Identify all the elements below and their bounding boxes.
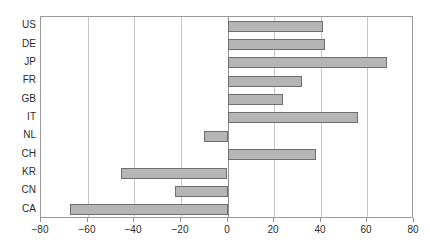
bar-gb[interactable]	[228, 94, 284, 105]
x-tick-label: 0	[224, 224, 230, 235]
category-label-de: DE	[0, 39, 36, 49]
bar-fr[interactable]	[228, 76, 303, 87]
x-tick-label: −80	[32, 224, 49, 235]
bar-jp[interactable]	[228, 57, 388, 68]
category-label-nl: NL	[0, 130, 36, 140]
x-axis: −80−60−40−20020406080	[40, 218, 413, 244]
bar-chart: USDEJPFRGBITNLCHKRCNCA −80−60−40−2002040…	[0, 0, 430, 250]
bar-row	[41, 127, 412, 145]
bar-row	[41, 201, 412, 219]
category-label-gb: GB	[0, 94, 36, 104]
bar-row	[41, 54, 412, 72]
category-label-ca: CA	[0, 204, 36, 214]
category-axis: USDEJPFRGBITNLCHKRCNCA	[0, 16, 36, 218]
category-label-kr: KR	[0, 167, 36, 177]
bar-nl[interactable]	[204, 131, 227, 142]
plot-area	[40, 16, 413, 218]
x-tick-label: 80	[407, 224, 418, 235]
category-label-jp: JP	[0, 57, 36, 67]
category-label-fr: FR	[0, 75, 36, 85]
category-label-it: IT	[0, 112, 36, 122]
category-label-cn: CN	[0, 185, 36, 195]
bar-row	[41, 146, 412, 164]
x-tick-label: −60	[79, 224, 96, 235]
bar-ca[interactable]	[70, 204, 227, 215]
x-tick	[133, 218, 134, 222]
category-label-ch: CH	[0, 149, 36, 159]
bar-de[interactable]	[228, 39, 326, 50]
bar-ch[interactable]	[228, 149, 317, 160]
bar-it[interactable]	[228, 112, 359, 123]
bar-row	[41, 35, 412, 53]
bar-row	[41, 182, 412, 200]
x-tick	[87, 218, 88, 222]
bar-row	[41, 17, 412, 35]
x-tick-label: 40	[314, 224, 325, 235]
x-tick	[227, 218, 228, 222]
bar-row	[41, 164, 412, 182]
x-tick	[180, 218, 181, 222]
x-tick-label: −20	[172, 224, 189, 235]
bar-kr[interactable]	[121, 168, 227, 179]
x-tick-label: −40	[125, 224, 142, 235]
bar-cn[interactable]	[175, 186, 227, 197]
x-tick	[273, 218, 274, 222]
x-tick	[366, 218, 367, 222]
category-label-us: US	[0, 20, 36, 30]
x-tick	[320, 218, 321, 222]
x-tick-label: 60	[360, 224, 371, 235]
x-tick	[40, 218, 41, 222]
x-tick	[413, 218, 414, 222]
x-tick-label: 20	[267, 224, 278, 235]
bar-row	[41, 109, 412, 127]
bar-us[interactable]	[228, 21, 324, 32]
bar-row	[41, 72, 412, 90]
bar-row	[41, 90, 412, 108]
chart-title	[0, 0, 430, 1]
